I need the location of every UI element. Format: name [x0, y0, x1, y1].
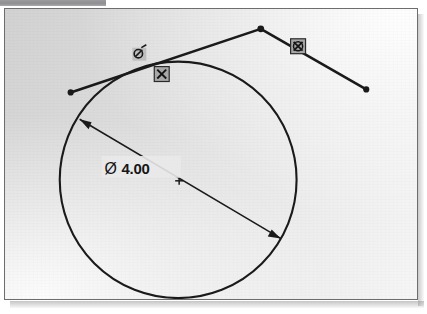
- sketch-canvas[interactable]: Ø 4.00: [4, 8, 418, 300]
- sketch-drawing[interactable]: Ø 4.00: [5, 9, 417, 299]
- polyline-endpoint-right[interactable]: [363, 86, 369, 92]
- page-shadow-right: [418, 14, 424, 306]
- dimension-arrow-start: [80, 119, 92, 129]
- polyline-entity[interactable]: [68, 25, 370, 95]
- tangent-constraint-icon-2[interactable]: [291, 39, 306, 54]
- page-shadow-bottom: [10, 301, 424, 308]
- tangent-constraint-icon[interactable]: [132, 45, 146, 61]
- diameter-dimension-text[interactable]: Ø 4.00: [102, 156, 182, 178]
- coincident-constraint-icon[interactable]: [154, 67, 169, 82]
- diameter-dimension-line[interactable]: [80, 119, 281, 238]
- diameter-value: 4.00: [121, 161, 149, 177]
- polyline-vertex-apex[interactable]: [257, 25, 264, 32]
- toolbar-strip[interactable]: [0, 0, 106, 6]
- dimension-arrow-end: [268, 229, 281, 238]
- polyline-endpoint-left[interactable]: [68, 89, 74, 95]
- screenshot-root: Ø 4.00: [0, 0, 427, 314]
- diameter-symbol: Ø: [105, 160, 117, 177]
- circle-entity[interactable]: [60, 62, 297, 298]
